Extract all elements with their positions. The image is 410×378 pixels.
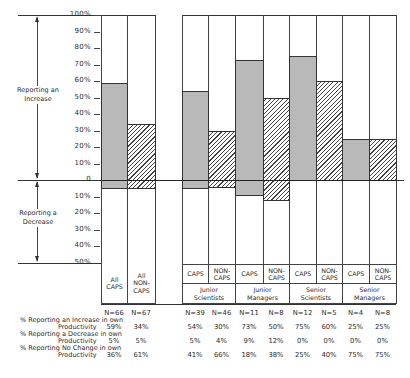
y-tick bbox=[94, 246, 100, 247]
y-tick bbox=[94, 65, 100, 66]
group-label: Senior Managers bbox=[342, 283, 397, 304]
row-value: 5% bbox=[181, 337, 209, 345]
y-tick-label: 90% bbox=[51, 27, 91, 35]
row-value: 0% bbox=[369, 337, 397, 345]
increase-arrow-up-icon bbox=[35, 16, 39, 22]
y-tick bbox=[94, 81, 100, 82]
label-bottom-border bbox=[101, 304, 396, 305]
row-value: 36% bbox=[100, 351, 128, 359]
row-value: 41% bbox=[181, 351, 209, 359]
bar-caps bbox=[342, 139, 370, 181]
y-tick-label: 30% bbox=[51, 225, 91, 233]
y-tick bbox=[94, 48, 100, 49]
label-noncaps: NON- CAPS bbox=[316, 264, 343, 284]
row-value: 0% bbox=[289, 337, 317, 345]
y-tick bbox=[94, 213, 100, 214]
row-value: 9% bbox=[235, 337, 263, 345]
label-caps: CAPS bbox=[342, 264, 370, 284]
row-value: 66% bbox=[208, 351, 236, 359]
y-tick bbox=[94, 32, 100, 33]
row-value: 0% bbox=[342, 337, 370, 345]
y-tick-label: 100% bbox=[51, 10, 91, 18]
label-caps: CAPS bbox=[182, 264, 209, 284]
n-value: N=39 bbox=[181, 309, 209, 317]
row-value: 60% bbox=[315, 323, 343, 331]
label-noncaps: NON- CAPS bbox=[369, 264, 397, 284]
zero-line bbox=[101, 180, 396, 181]
bar-noncaps bbox=[316, 81, 343, 181]
row-value: 54% bbox=[181, 323, 209, 331]
label-caps: CAPS bbox=[289, 264, 317, 284]
row-value: 4% bbox=[208, 337, 236, 345]
y-tick bbox=[94, 230, 100, 231]
n-value: N=5 bbox=[315, 309, 343, 317]
n-value: N=11 bbox=[235, 309, 263, 317]
group-label: Senior Scientists bbox=[289, 283, 343, 304]
label-all-caps: All CAPS bbox=[101, 263, 128, 304]
y-tick-label: 30% bbox=[51, 126, 91, 134]
y-tick-label: 60% bbox=[51, 76, 91, 84]
y-tick bbox=[94, 15, 100, 16]
row-value: 0% bbox=[315, 337, 343, 345]
y-tick-label: 0 bbox=[51, 175, 91, 183]
n-value: N=46 bbox=[208, 309, 236, 317]
row-value: 38% bbox=[262, 351, 290, 359]
n-value: N=67 bbox=[127, 309, 155, 317]
plot-top-border bbox=[101, 15, 155, 16]
row-value: 12% bbox=[262, 337, 290, 345]
row-value: 25% bbox=[289, 351, 317, 359]
row-value: 61% bbox=[127, 351, 155, 359]
increase-arrow-down-icon bbox=[35, 173, 39, 179]
row-value: 40% bbox=[315, 351, 343, 359]
decrease-arrow-down-icon bbox=[35, 256, 39, 262]
row-value: 18% bbox=[235, 351, 263, 359]
y-tick-label: 50% bbox=[51, 93, 91, 101]
bar-caps bbox=[101, 83, 128, 190]
y-tick-label: 80% bbox=[51, 43, 91, 51]
y-tick-label: 10% bbox=[51, 192, 91, 200]
y-tick bbox=[94, 147, 100, 148]
row-value: 75% bbox=[342, 351, 370, 359]
n-value: N=8 bbox=[262, 309, 290, 317]
n-value: N=12 bbox=[289, 309, 317, 317]
y-tick bbox=[94, 197, 100, 198]
label-caps: CAPS bbox=[235, 264, 264, 284]
bar-noncaps bbox=[263, 98, 290, 201]
chart: Reporting an Increase Reporting a Decrea… bbox=[0, 0, 410, 378]
group-label: Junior Scientists bbox=[182, 283, 236, 304]
n-value: N=8 bbox=[369, 309, 397, 317]
y-tick bbox=[94, 98, 100, 99]
bar-caps bbox=[235, 60, 264, 196]
y-tick bbox=[94, 114, 100, 115]
row-value: 5% bbox=[127, 337, 155, 345]
y-tick-label: 10% bbox=[51, 159, 91, 167]
y-tick bbox=[94, 164, 100, 165]
group-label: Junior Managers bbox=[235, 283, 290, 304]
y-tick-label: 50% bbox=[51, 258, 91, 266]
label-noncaps: NON- CAPS bbox=[208, 264, 236, 284]
row-value: 34% bbox=[127, 323, 155, 331]
n-value: N=4 bbox=[342, 309, 370, 317]
label-all-noncaps: All NON- CAPS bbox=[127, 263, 156, 304]
row-value: 75% bbox=[289, 323, 317, 331]
y-tick bbox=[94, 131, 100, 132]
label-noncaps: NON- CAPS bbox=[263, 264, 290, 284]
y-tick-label: 70% bbox=[51, 60, 91, 68]
row-value: 75% bbox=[369, 351, 397, 359]
bar-noncaps bbox=[369, 139, 397, 181]
row-value: 30% bbox=[208, 323, 236, 331]
row-value: 73% bbox=[235, 323, 263, 331]
y-tick-label: 40% bbox=[51, 241, 91, 249]
row-value: 25% bbox=[342, 323, 370, 331]
y-tick-label: 20% bbox=[51, 142, 91, 150]
y-tick-label: 20% bbox=[51, 208, 91, 216]
decrease-arrow-up-icon bbox=[35, 181, 39, 187]
bar-caps bbox=[289, 56, 317, 181]
bar-caps bbox=[182, 91, 209, 189]
y-tick-label: 40% bbox=[51, 109, 91, 117]
row-value: 25% bbox=[369, 323, 397, 331]
row-value: 50% bbox=[262, 323, 290, 331]
row-label: Productivity bbox=[58, 351, 97, 359]
